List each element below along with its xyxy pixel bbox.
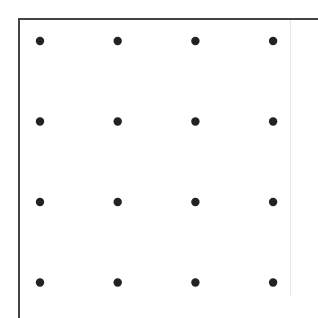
grid-dot-r1-c4 [269, 37, 277, 45]
grid-dot-r2-c1 [36, 117, 44, 125]
grid-dot-r2-c3 [191, 117, 199, 125]
grid-dot-r1-c1 [36, 37, 44, 45]
grid-dot-r1-c3 [191, 37, 199, 45]
grid-dot-r1-c2 [114, 37, 122, 45]
grid-dot-r2-c2 [114, 117, 122, 125]
grid-dot-r3-c4 [269, 198, 277, 206]
grid-dot-r3-c1 [36, 198, 44, 206]
grid-dot-r4-c3 [191, 278, 199, 286]
grid-dot-r4-c2 [114, 278, 122, 286]
grid-dot-r3-c2 [114, 198, 122, 206]
grid-dot-r2-c4 [269, 117, 277, 125]
grid-dot-r3-c3 [191, 198, 199, 206]
grid-dot-r4-c1 [36, 278, 44, 286]
grid-dot-r4-c4 [269, 278, 277, 286]
